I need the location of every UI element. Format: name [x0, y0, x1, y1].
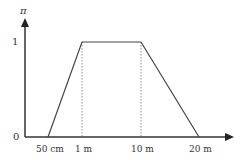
- x-tick-50cm: 50 cm: [36, 144, 64, 154]
- x-tick-20m: 20 m: [189, 144, 212, 154]
- y-tick-1: 1: [12, 36, 18, 47]
- trapezoid-chart: π 1 0 50 cm 1 m 10 m 20 m: [0, 0, 245, 160]
- y-axis-label: π: [19, 5, 27, 16]
- x-tick-10m: 10 m: [131, 144, 154, 154]
- y-tick-0: 0: [13, 131, 19, 142]
- x-axis-arrow-icon: [225, 133, 234, 141]
- y-axis-arrow-icon: [21, 18, 29, 27]
- possibility-curve: [48, 42, 199, 137]
- x-tick-1m: 1 m: [75, 144, 93, 154]
